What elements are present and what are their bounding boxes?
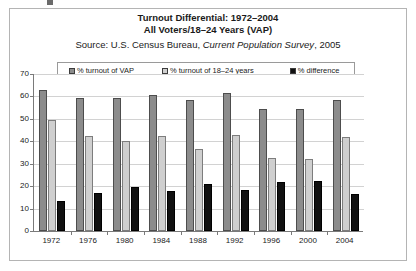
bar-turnout-young xyxy=(305,159,313,231)
bar-group xyxy=(71,74,108,231)
x-axis-group-separator xyxy=(144,231,145,235)
x-axis-tick-label: 1980 xyxy=(106,236,143,246)
y-axis-tick-label: 40 xyxy=(9,137,29,145)
scan-artifact-mark xyxy=(47,0,53,5)
y-axis-tick-label: 30 xyxy=(9,160,29,168)
bar-difference xyxy=(167,191,175,231)
y-axis-tick-mark xyxy=(30,231,33,232)
chart-plot-area xyxy=(33,74,363,232)
bar-turnout-young xyxy=(195,149,203,231)
bar-turnout-vap xyxy=(39,90,47,231)
bar-turnout-young xyxy=(122,141,130,231)
bar-turnout-young xyxy=(48,120,56,231)
chart-title-block: Turnout Differential: 1972–2004 All Vote… xyxy=(0,12,416,52)
bar-difference xyxy=(277,182,285,231)
x-axis-tick-labels: 197219761980198419881992199620002004 xyxy=(33,236,363,250)
x-axis-group-separator xyxy=(181,231,182,235)
bar-turnout-vap xyxy=(113,98,121,231)
bar-group xyxy=(217,74,254,231)
bar-group xyxy=(181,74,218,231)
x-axis-tick-label: 1988 xyxy=(180,236,217,246)
bar-difference xyxy=(94,193,102,231)
bar-difference xyxy=(351,194,359,231)
legend-swatch-icon-vap xyxy=(69,68,75,74)
bar-turnout-vap xyxy=(149,95,157,231)
bar-group xyxy=(34,74,71,231)
y-axis-tick-mark xyxy=(30,141,33,142)
legend-swatch-icon-young xyxy=(162,68,168,74)
chart-source-line: Source: U.S. Census Bureau, Current Popu… xyxy=(0,37,416,52)
bar-difference xyxy=(204,184,212,231)
bar-turnout-vap xyxy=(296,109,304,231)
chart-title-line-1: Turnout Differential: 1972–2004 xyxy=(0,12,416,24)
x-axis-group-separator xyxy=(291,231,292,235)
y-axis-tick-mark xyxy=(30,164,33,165)
source-publication: Current Population Survey xyxy=(203,39,314,50)
y-axis-tick-label: 50 xyxy=(9,115,29,123)
bar-turnout-vap xyxy=(186,100,194,231)
y-axis-tick-mark xyxy=(30,186,33,187)
chart-plot-inner xyxy=(34,74,363,231)
bar-turnout-young xyxy=(268,158,276,231)
x-axis-group-separator xyxy=(217,231,218,235)
bar-turnout-vap xyxy=(76,98,84,231)
bar-turnout-vap xyxy=(223,93,231,231)
x-axis-group-separator xyxy=(327,231,328,235)
x-axis-tick-label: 1992 xyxy=(216,236,253,246)
x-axis-tick-label: 2000 xyxy=(290,236,327,246)
x-axis-group-separator xyxy=(254,231,255,235)
y-axis-tick-label: 0 xyxy=(9,227,29,235)
y-axis-tick-mark xyxy=(30,74,33,75)
bar-group xyxy=(291,74,328,231)
source-prefix: Source: U.S. Census Bureau, xyxy=(75,39,202,50)
x-axis-tick-label: 1976 xyxy=(70,236,107,246)
bar-difference xyxy=(57,201,65,231)
y-axis-tick-label: 20 xyxy=(9,182,29,190)
x-axis-group-separator xyxy=(107,231,108,235)
bar-turnout-vap xyxy=(333,100,341,231)
bar-difference xyxy=(131,187,139,231)
chart-figure: Turnout Differential: 1972–2004 All Vote… xyxy=(0,0,416,271)
bar-turnout-young xyxy=(232,135,240,231)
legend-swatch-icon-difference xyxy=(290,68,296,74)
x-axis-tick-label: 1972 xyxy=(33,236,70,246)
y-axis-tick-mark xyxy=(30,96,33,97)
bar-group xyxy=(254,74,291,231)
bar-group xyxy=(327,74,364,231)
x-axis-tick-label: 1984 xyxy=(143,236,180,246)
source-suffix: , 2005 xyxy=(314,39,340,50)
bar-group xyxy=(144,74,181,231)
x-axis-tick-label: 1996 xyxy=(253,236,290,246)
bar-difference xyxy=(241,190,249,231)
bar-turnout-young xyxy=(158,136,166,231)
y-axis-tick-labels: 706050403020100 xyxy=(9,74,29,232)
bar-difference xyxy=(314,181,322,231)
x-axis-group-separator xyxy=(71,231,72,235)
y-axis-tick-mark xyxy=(30,209,33,210)
chart-title-line-2: All Voters/18–24 Years (VAP) xyxy=(0,24,416,36)
bar-turnout-young xyxy=(85,136,93,231)
y-axis-tick-label: 10 xyxy=(9,205,29,213)
bar-turnout-vap xyxy=(259,109,267,231)
bar-group xyxy=(107,74,144,231)
y-axis-tick-label: 70 xyxy=(9,70,29,78)
y-axis-tick-label: 60 xyxy=(9,92,29,100)
x-axis-tick-label: 2004 xyxy=(326,236,363,246)
bar-turnout-young xyxy=(342,137,350,231)
y-axis-tick-mark xyxy=(30,119,33,120)
